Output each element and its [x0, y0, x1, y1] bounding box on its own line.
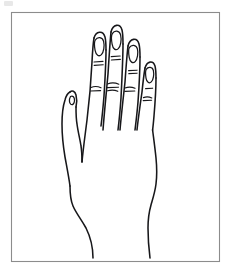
hand-line-drawing [0, 0, 230, 270]
index-finger-crease-upper-2 [94, 65, 103, 66]
illustration-root: Black and white outline drawing of the b… [0, 0, 230, 270]
middle-finger-crease-upper-1 [111, 56, 120, 57]
index-finger-crease-upper-1 [94, 61, 103, 62]
middle-finger-crease-upper-2 [111, 59, 120, 60]
